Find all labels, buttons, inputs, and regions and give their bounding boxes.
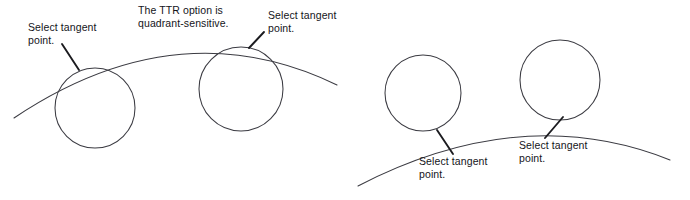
note-ttr-line-2: quadrant-sensitive.	[138, 17, 229, 30]
label-select-tangent-point-4: Select tangent point.	[519, 139, 588, 164]
label-tangent-1-line-1: Select tangent	[28, 21, 97, 34]
circle-right-1	[385, 55, 461, 131]
label-select-tangent-point-1: Select tangent point.	[28, 21, 97, 46]
label-tangent-3-line-1: Select tangent	[419, 155, 488, 168]
label-tangent-2-line-1: Select tangent	[268, 9, 337, 22]
circle-right-2	[520, 40, 600, 120]
label-tangent-2-line-2: point.	[268, 22, 337, 35]
label-tangent-3-line-2: point.	[419, 168, 488, 181]
circle-left-2	[199, 47, 283, 131]
label-tangent-1-line-2: point.	[28, 34, 97, 47]
leader-line-tangent-2	[249, 32, 264, 48]
leader-line-tangent-1	[62, 44, 79, 70]
label-select-tangent-point-2: Select tangent point.	[268, 9, 337, 34]
ttr-tangent-diagram: The TTR option is quadrant-sensitive. Se…	[0, 0, 690, 200]
label-tangent-4-line-2: point.	[519, 152, 588, 165]
left-panel	[14, 32, 337, 148]
right-panel	[358, 40, 670, 186]
note-ttr-line-1: The TTR option is	[138, 4, 229, 17]
arc-right	[358, 136, 670, 186]
label-tangent-4-line-1: Select tangent	[519, 139, 588, 152]
note-ttr-quadrant-sensitive: The TTR option is quadrant-sensitive.	[138, 4, 229, 29]
circle-left-1	[55, 68, 135, 148]
label-select-tangent-point-3: Select tangent point.	[419, 155, 488, 180]
diagram-canvas	[0, 0, 690, 200]
leader-line-tangent-4	[545, 117, 563, 138]
